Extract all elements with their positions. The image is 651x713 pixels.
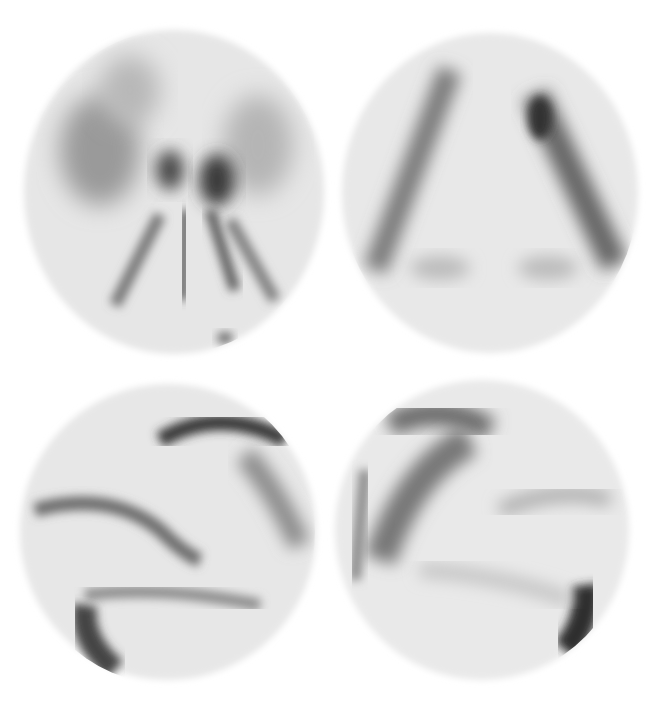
scintigraphy-figure: cran ts spine cran spine ti ti cran ts t… [0, 0, 651, 713]
scan-top-right [342, 33, 638, 353]
scan-bottom-right [335, 380, 629, 680]
scan-bottom-left [20, 384, 316, 680]
scan-top-left [24, 30, 324, 354]
scan-images [0, 0, 651, 713]
